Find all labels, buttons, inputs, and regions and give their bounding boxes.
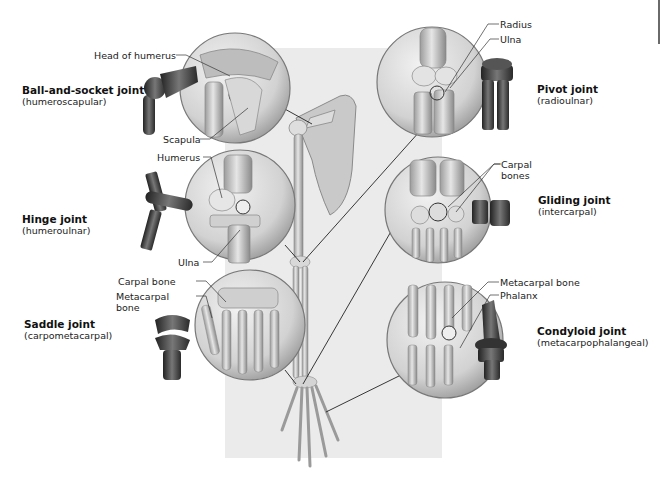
pivot-title: Pivot joint [537,83,598,95]
ball-and-socket-title: Ball-and-socket joint [22,84,144,96]
callout-phalanx: Phalanx [500,290,538,301]
pivot-example: (radioulnar) [537,95,593,106]
circle-ball-and-socket [180,33,290,143]
hinge-example: (humeroulnar) [22,225,90,236]
saddle-example: (carpometacarpal) [24,330,112,341]
pivot-model [481,58,513,130]
illustration [0,0,661,482]
hinge-title: Hinge joint [22,213,87,225]
callout-ulna-hinge: Ulna [178,257,199,268]
callout-metacarpal-line2: bone [116,302,140,313]
gliding-title: Gliding joint [538,194,611,206]
skeleton-arm [282,95,356,466]
callout-humerus: Humerus [157,152,200,163]
ball-and-socket-example: (humeroscapular) [22,96,106,107]
callout-scapula: Scapula [163,134,201,145]
circle-pivot [377,27,487,137]
callout-metacarpal-line1: Metacarpal [116,291,169,302]
gliding-example: (intercarpal) [538,206,597,217]
callout-carpal-bones-line2: bones [501,170,530,181]
callout-metacarpal-bone-condyloid: Metacarpal bone [500,277,580,288]
callout-ulna-pivot: Ulna [500,34,521,45]
saddle-title: Saddle joint [24,318,95,330]
joint-types-diagram: Ball-and-socket joint (humeroscapular) P… [0,0,661,482]
callout-carpal-bones-line1: Carpal [501,159,532,170]
condyloid-example: (metacarpophalangeal) [537,337,649,348]
saddle-model [155,315,190,380]
callout-head-of-humerus: Head of humerus [94,50,176,61]
condyloid-title: Condyloid joint [537,325,626,337]
callout-carpal-bone: Carpal bone [118,276,176,287]
callout-radius: Radius [500,19,532,30]
circle-hinge [185,150,295,263]
gliding-model [472,200,510,226]
